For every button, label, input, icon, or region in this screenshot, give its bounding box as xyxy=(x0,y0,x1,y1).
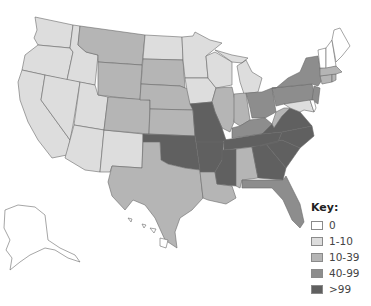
state-FL xyxy=(242,176,304,228)
key-title: Key: xyxy=(311,201,360,214)
key-label: 40-99 xyxy=(329,267,360,279)
key-item-0: 0 xyxy=(311,217,360,233)
state-WA xyxy=(34,17,73,48)
key-item-10-39: 10-39 xyxy=(311,249,360,265)
state-SD xyxy=(141,59,185,88)
key-item-over-99: >99 xyxy=(311,281,360,297)
key-label: >99 xyxy=(329,283,351,295)
state-ND xyxy=(143,35,183,60)
key-label: 1-10 xyxy=(329,235,353,247)
state-KS xyxy=(149,109,195,136)
state-CO xyxy=(104,97,150,134)
state-NM xyxy=(100,130,143,172)
swatch-10-39 xyxy=(311,253,323,262)
swatch-0 xyxy=(311,221,323,230)
key-label: 10-39 xyxy=(329,251,360,263)
swatch-over-99 xyxy=(311,285,323,294)
state-AK xyxy=(4,205,80,270)
map-key: Key: 0 1-10 10-39 40-99 >99 xyxy=(311,201,360,297)
swatch-40-99 xyxy=(311,269,323,278)
state-WY xyxy=(98,62,142,100)
key-item-40-99: 40-99 xyxy=(311,265,360,281)
key-label: 0 xyxy=(329,219,336,231)
swatch-1-10 xyxy=(311,237,323,246)
state-RI xyxy=(332,74,336,82)
state-NY xyxy=(272,56,322,88)
state-OH xyxy=(246,88,276,118)
key-item-1-10: 1-10 xyxy=(311,233,360,249)
